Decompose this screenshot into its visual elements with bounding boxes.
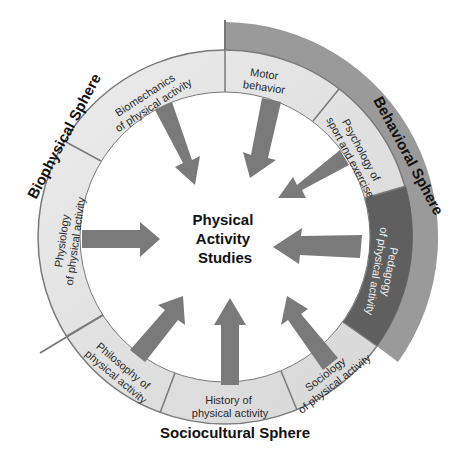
center-title: Physical Activity Studies [192, 211, 257, 266]
sociocultural-sphere-label: Sociocultural Sphere [160, 424, 310, 441]
physical-activity-diagram: Physical Activity Studies Biomechanics o… [0, 0, 454, 476]
